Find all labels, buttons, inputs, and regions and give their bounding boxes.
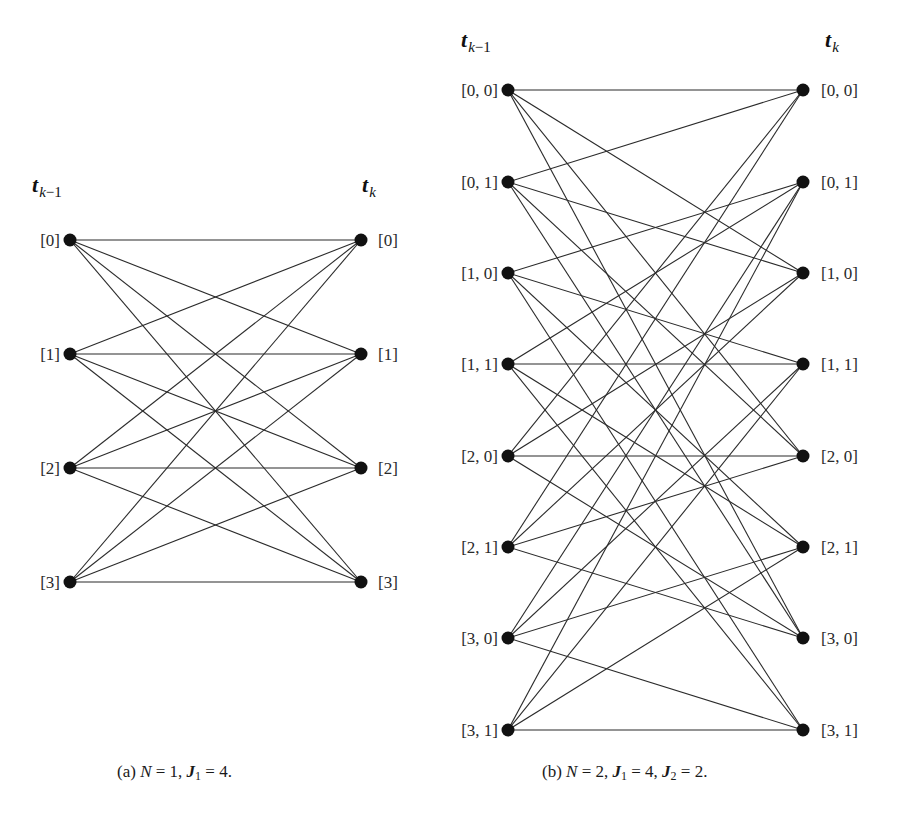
state-node-left — [502, 84, 515, 97]
state-label-left: [3, 0] — [461, 629, 498, 648]
state-label-right: [3, 0] — [821, 629, 858, 648]
state-node-right — [355, 462, 368, 475]
state-node-left — [64, 462, 77, 475]
header-t-k: tk — [362, 172, 376, 200]
state-label-right: [3] — [378, 573, 398, 592]
state-label-left: [0] — [40, 231, 60, 250]
state-node-right — [797, 267, 810, 280]
state-node-left — [64, 348, 77, 361]
state-node-right — [355, 234, 368, 247]
panel-b-caption: (b) N = 2, J1 = 4, J2 = 2. — [542, 762, 707, 784]
state-label-left: [3] — [40, 573, 60, 592]
state-node-left — [502, 267, 515, 280]
header-t-k-minus-1: tk−1 — [461, 27, 491, 55]
panel-a-nodes: [0][1][2][3][0][1][2][3] — [40, 231, 398, 592]
transition-edge — [508, 638, 803, 730]
state-node-left — [64, 576, 77, 589]
state-node-right — [797, 176, 810, 189]
panel-b-headers: tk−1tk — [461, 27, 839, 55]
state-label-right: [2, 1] — [821, 538, 858, 557]
caption-j1-value: = 4. — [201, 762, 232, 781]
state-label-left: [1, 1] — [461, 355, 498, 374]
panel-a-edges — [70, 240, 361, 582]
state-node-left — [502, 176, 515, 189]
panel-b-trellis: [0, 0][0, 1][1, 0][1, 1][2, 0][2, 1][3, … — [461, 27, 858, 740]
state-label-left: [3, 1] — [461, 721, 498, 740]
state-label-right: [3, 1] — [821, 721, 858, 740]
state-node-right — [797, 358, 810, 371]
state-node-left — [64, 234, 77, 247]
state-label-left: [2] — [40, 459, 60, 478]
state-node-left — [502, 450, 515, 463]
state-node-left — [502, 632, 515, 645]
state-label-right: [0, 0] — [821, 81, 858, 100]
caption-prefix: (a) — [117, 762, 140, 781]
state-node-right — [797, 724, 810, 737]
caption-n-value: = 1, — [151, 762, 186, 781]
transition-edge — [508, 547, 803, 730]
transition-edge — [508, 90, 803, 547]
caption-j2-value: = 2. — [677, 762, 708, 781]
caption-n-symbol: N — [140, 762, 151, 781]
state-node-right — [355, 576, 368, 589]
state-label-right: [1] — [378, 345, 398, 364]
header-t-k: tk — [825, 27, 839, 55]
panel-a-headers: tk−1tk — [32, 172, 376, 200]
state-node-left — [502, 541, 515, 554]
caption-n-value: = 2, — [577, 762, 612, 781]
state-label-left: [2, 1] — [461, 538, 498, 557]
panel-b-edges — [508, 90, 803, 730]
state-label-left: [0, 1] — [461, 173, 498, 192]
state-label-right: [1, 0] — [821, 264, 858, 283]
caption-j1-symbol: J — [187, 762, 196, 781]
panel-a-trellis: [0][1][2][3][0][1][2][3] tk−1tk — [32, 172, 398, 592]
state-node-right — [797, 450, 810, 463]
state-label-right: [2, 0] — [821, 447, 858, 466]
panel-a-caption: (a) N = 1, J1 = 4. — [117, 762, 232, 784]
state-node-left — [502, 724, 515, 737]
state-label-left: [1] — [40, 345, 60, 364]
state-label-right: [2] — [378, 459, 398, 478]
header-t-k-minus-1: tk−1 — [32, 172, 62, 200]
state-node-right — [797, 632, 810, 645]
transition-edge — [508, 90, 803, 182]
state-label-right: [0, 1] — [821, 173, 858, 192]
state-label-left: [0, 0] — [461, 81, 498, 100]
state-node-left — [502, 358, 515, 371]
transition-edge — [508, 364, 803, 638]
state-label-right: [1, 1] — [821, 355, 858, 374]
caption-j1-symbol: J — [613, 762, 622, 781]
state-node-right — [797, 84, 810, 97]
panel-b-nodes: [0, 0][0, 1][1, 0][1, 1][2, 0][2, 1][3, … — [461, 81, 858, 740]
state-node-right — [355, 348, 368, 361]
state-label-right: [0] — [378, 231, 398, 250]
caption-prefix: (b) — [542, 762, 566, 781]
trellis-diagram: [0][1][2][3][0][1][2][3] tk−1tk [0, 0][0… — [0, 0, 897, 813]
state-node-right — [797, 541, 810, 554]
state-label-left: [2, 0] — [461, 447, 498, 466]
caption-j1-value: = 4, — [627, 762, 662, 781]
caption-n-symbol: N — [566, 762, 577, 781]
transition-edge — [508, 90, 803, 273]
caption-j2-symbol: J — [662, 762, 671, 781]
state-label-left: [1, 0] — [461, 264, 498, 283]
